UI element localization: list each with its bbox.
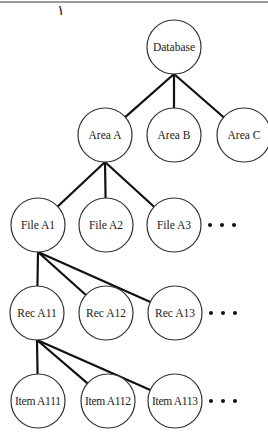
edge-file-a1-to-rec-a11 [37, 252, 38, 286]
edge-area-a-to-file-a2 [105, 162, 106, 198]
ellipsis-records [209, 311, 237, 315]
dot-icon [209, 311, 213, 315]
node-area-c: Area C [217, 108, 268, 162]
node-file-a1: File A1 [11, 198, 65, 252]
node-item-a111: Item A111 [11, 374, 65, 428]
node-label: Item A113 [152, 395, 198, 407]
dot-icon [232, 223, 236, 227]
node-label: Area B [158, 129, 191, 141]
hierarchy-tree-diagram: DatabaseArea AArea BArea CFile A1File A2… [0, 0, 268, 441]
node-label: Rec A13 [155, 307, 195, 319]
node-database: Database [147, 20, 201, 74]
continuation-dots [208, 223, 237, 403]
node-file-a2: File A2 [79, 198, 133, 252]
dot-icon [233, 399, 237, 403]
node-label: Rec A11 [17, 307, 57, 319]
tree-nodes: DatabaseArea AArea BArea CFile A1File A2… [10, 20, 268, 428]
dot-icon [208, 223, 212, 227]
dot-icon [221, 399, 225, 403]
dot-icon [209, 399, 213, 403]
node-label: Item A111 [15, 395, 61, 407]
node-file-a3: File A3 [147, 198, 201, 252]
dot-icon [221, 311, 225, 315]
node-label: Item A112 [85, 395, 131, 407]
node-item-a112: Item A112 [81, 374, 135, 428]
dot-icon [220, 223, 224, 227]
node-rec-a13: Rec A13 [148, 286, 202, 340]
node-label: File A1 [21, 219, 55, 231]
dot-icon [233, 311, 237, 315]
node-label: File A3 [157, 219, 191, 231]
node-label: Rec A12 [86, 307, 126, 319]
ellipsis-items [209, 399, 237, 403]
node-rec-a12: Rec A12 [79, 286, 133, 340]
node-rec-a11: Rec A11 [10, 286, 64, 340]
node-area-a: Area A [78, 108, 132, 162]
node-label: File A2 [89, 219, 123, 231]
edge-rec-a11-to-item-a111 [37, 340, 38, 374]
node-label: Database [153, 41, 195, 53]
node-item-a113: Item A113 [148, 374, 202, 428]
ellipsis-files [208, 223, 236, 227]
node-area-b: Area B [147, 108, 201, 162]
node-label: Area A [89, 129, 123, 141]
node-label: Area C [228, 129, 261, 141]
